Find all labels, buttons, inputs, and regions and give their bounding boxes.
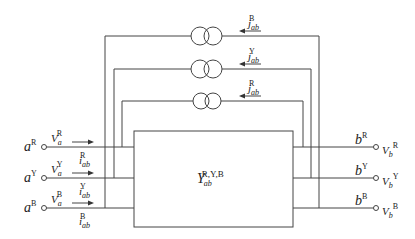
node-a-Y: aY [24,171,37,185]
current-ab-Y: iabY [79,186,86,197]
voltage-a-Y: VaY [51,164,63,175]
block-label: YabR,Y,B [197,172,224,186]
voltage-b-R: VbR [382,145,398,156]
node-b-Y: bY [355,164,368,178]
node-b-B: bB [355,194,367,208]
node-b-R: bR [355,133,367,147]
current-ab-R: iabR [79,155,85,166]
source-current-B: jabB [248,18,254,29]
circuit-wiring [0,0,415,239]
source-current-R: jabR [248,83,254,94]
source-current-Y: jabY [248,51,255,62]
voltage-a-R: VaR [51,133,62,144]
node-a-R: aR [24,140,36,154]
voltage-b-Y: VbY [382,176,399,187]
voltage-b-B: VbB [382,206,398,217]
node-a-B: aB [24,201,36,215]
current-ab-B: iabB [79,216,85,227]
voltage-a-B: VaB [51,194,62,205]
